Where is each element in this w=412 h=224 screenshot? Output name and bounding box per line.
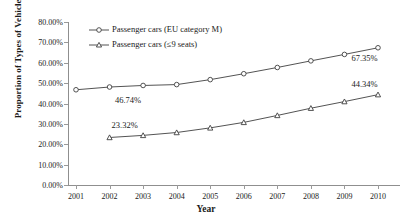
x-tick-label: 2009 — [336, 192, 352, 201]
x-tick-label: 2008 — [303, 192, 319, 201]
x-tick-label: 2005 — [202, 192, 218, 201]
x-tick-mark — [344, 185, 345, 189]
legend-label: Passenger cars (EU category M) — [112, 23, 222, 36]
y-tick-label: 20.00% — [38, 140, 63, 149]
y-axis-title: Proportion of Types of Vehicles — [13, 0, 23, 137]
value-label: 44.34% — [351, 79, 377, 89]
x-tick-mark — [311, 185, 312, 189]
data-point-marker — [107, 85, 112, 90]
y-tick-label: 50.00% — [38, 79, 63, 88]
value-label: 67.35% — [351, 53, 377, 63]
x-tick-mark — [76, 185, 77, 189]
y-tick-label: 40.00% — [38, 99, 63, 108]
x-tick-mark — [277, 185, 278, 189]
x-tick-mark — [143, 185, 144, 189]
series-line — [76, 48, 378, 90]
data-point-marker — [241, 71, 246, 76]
y-tick-label: 70.00% — [38, 38, 63, 47]
series-1 — [74, 45, 381, 92]
data-point-marker — [174, 82, 179, 87]
legend-triangle-icon — [88, 40, 110, 50]
data-point-marker — [375, 92, 380, 97]
x-tick-label: 2006 — [236, 192, 252, 201]
legend: Passenger cars (EU category M)Passenger … — [88, 23, 222, 51]
x-tick-mark — [110, 185, 111, 189]
x-tick-mark — [244, 185, 245, 189]
x-axis-line — [68, 185, 400, 186]
y-tick-label: 30.00% — [38, 119, 63, 128]
x-axis-title: Year — [0, 204, 412, 214]
legend-circle-icon — [88, 25, 110, 35]
value-label: 23.32% — [112, 120, 138, 130]
legend-item-2: Passenger cars (≤9 seats) — [88, 38, 222, 51]
x-tick-label: 2002 — [102, 192, 118, 201]
data-point-marker — [376, 45, 381, 50]
data-point-marker — [208, 77, 213, 82]
x-tick-mark — [177, 185, 178, 189]
data-point-marker — [275, 65, 280, 70]
y-tick-label: 60.00% — [38, 58, 63, 67]
line-chart: Proportion of Types of Vehicles Year 0.0… — [0, 0, 412, 224]
data-point-marker — [309, 59, 314, 64]
x-tick-label: 2003 — [135, 192, 151, 201]
legend-label: Passenger cars (≤9 seats) — [112, 38, 197, 51]
series-2 — [107, 92, 381, 140]
x-tick-label: 2007 — [269, 192, 285, 201]
series-line — [110, 95, 378, 138]
legend-item-1: Passenger cars (EU category M) — [88, 23, 222, 36]
x-tick-label: 2001 — [68, 192, 84, 201]
data-point-marker — [74, 87, 79, 92]
x-tick-label: 2010 — [370, 192, 386, 201]
value-label: 46.74% — [115, 95, 141, 105]
y-tick-mark — [64, 185, 68, 186]
data-point-marker — [342, 52, 347, 57]
y-tick-label: 10.00% — [38, 160, 63, 169]
data-point-marker — [141, 83, 146, 88]
x-tick-label: 2004 — [169, 192, 185, 201]
y-tick-label: 0.00% — [42, 181, 63, 190]
y-tick-label: 80.00% — [38, 18, 63, 27]
x-tick-mark — [378, 185, 379, 189]
x-tick-mark — [210, 185, 211, 189]
